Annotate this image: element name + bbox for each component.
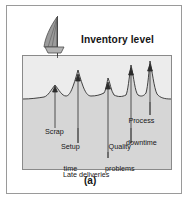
label-setup-line1: Setup <box>61 143 80 150</box>
page-title: Inventory level <box>81 35 154 45</box>
label-process: Process downtime <box>126 102 157 161</box>
label-process-line1: Process <box>126 117 157 124</box>
sailboat-icon <box>44 16 64 58</box>
figure-root: Inventory level Scrap Setup time Quality… <box>0 0 189 200</box>
label-process-line2: downtime <box>126 139 157 146</box>
label-quality-line2: problems <box>105 165 135 172</box>
figure-caption: (a) <box>84 176 96 186</box>
hull-shape <box>45 47 64 53</box>
